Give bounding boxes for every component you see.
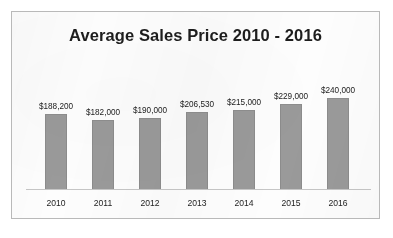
x-tick-label: 2012 bbox=[128, 198, 172, 208]
bar-rect[interactable] bbox=[280, 104, 302, 189]
bar-rect[interactable] bbox=[186, 112, 208, 189]
bar-slot: $206,530 bbox=[175, 70, 219, 189]
bar-slot: $229,000 bbox=[269, 70, 313, 189]
bar-slot: $190,000 bbox=[128, 70, 172, 189]
x-tick-label: 2015 bbox=[269, 198, 313, 208]
bar-rect[interactable] bbox=[45, 114, 67, 189]
x-tick-label: 2011 bbox=[81, 198, 125, 208]
chart-title: Average Sales Price 2010 - 2016 bbox=[12, 26, 379, 45]
bar-rect[interactable] bbox=[92, 120, 114, 189]
plot-area: $188,200 $182,000 $190,000 $206,530 $215… bbox=[26, 70, 367, 189]
bar-slot: $215,000 bbox=[222, 70, 266, 189]
bar-slot: $188,200 bbox=[34, 70, 78, 189]
bar-rect[interactable] bbox=[233, 110, 255, 189]
x-tick-label: 2014 bbox=[222, 198, 266, 208]
bar-rect[interactable] bbox=[139, 118, 161, 189]
bar-slot: $182,000 bbox=[81, 70, 125, 189]
x-tick-label: 2013 bbox=[175, 198, 219, 208]
x-axis-labels: 2010 2011 2012 2013 2014 2015 2016 bbox=[26, 196, 367, 216]
bar-rect[interactable] bbox=[327, 98, 349, 189]
x-tick-label: 2010 bbox=[34, 198, 78, 208]
x-tick-label: 2016 bbox=[316, 198, 360, 208]
bar-value-label: $240,000 bbox=[309, 86, 367, 95]
bar-slot: $240,000 bbox=[316, 70, 360, 189]
chart-card: Average Sales Price 2010 - 2016 $188,200… bbox=[11, 11, 380, 219]
category-axis-line bbox=[26, 189, 371, 190]
